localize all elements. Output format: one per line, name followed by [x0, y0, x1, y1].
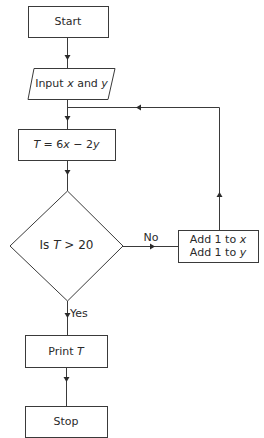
increment-var-x: x	[240, 233, 247, 246]
stop-label: Stop	[25, 415, 107, 428]
arrowhead-left-icon	[136, 105, 141, 111]
no-edge-label: No	[138, 231, 164, 244]
compute-minus: − 2	[70, 138, 93, 151]
decision-label: Is T > 20	[10, 239, 123, 252]
arrowhead-right-icon	[150, 244, 155, 250]
compute-eq: = 6	[40, 138, 63, 151]
decision-condition: > 20	[61, 238, 94, 252]
increment-line1-prefix: Add 1 to	[190, 233, 240, 246]
arrowhead-down-icon	[65, 170, 71, 175]
decision-prefix: Is	[40, 238, 54, 252]
input-var-y: y	[101, 77, 108, 90]
increment-var-y: y	[240, 246, 247, 259]
increment-line-1: Add 1 to x	[178, 233, 258, 246]
increment-label: Add 1 to x Add 1 to y	[178, 233, 258, 259]
input-label-prefix: Input	[35, 77, 67, 90]
print-var-t: T	[77, 345, 84, 358]
arrowhead-down-icon	[65, 55, 71, 60]
arrowhead-down-icon	[65, 116, 71, 121]
decision-var-t: T	[53, 238, 60, 252]
print-label: Print T	[25, 345, 107, 358]
start-label: Start	[28, 15, 108, 28]
flowchart-canvas	[0, 0, 264, 438]
input-label-mid: and	[74, 77, 102, 90]
print-prefix: Print	[48, 345, 77, 358]
increment-line-2: Add 1 to y	[178, 246, 258, 259]
yes-edge-label: Yes	[70, 307, 88, 320]
compute-var-y: y	[93, 138, 100, 151]
arrowhead-down-icon	[64, 377, 70, 382]
increment-line2-prefix: Add 1 to	[190, 246, 240, 259]
compute-label: T = 6x − 2y	[18, 138, 115, 151]
input-label: Input x and y	[28, 77, 115, 90]
arrowhead-up-icon	[217, 192, 223, 197]
